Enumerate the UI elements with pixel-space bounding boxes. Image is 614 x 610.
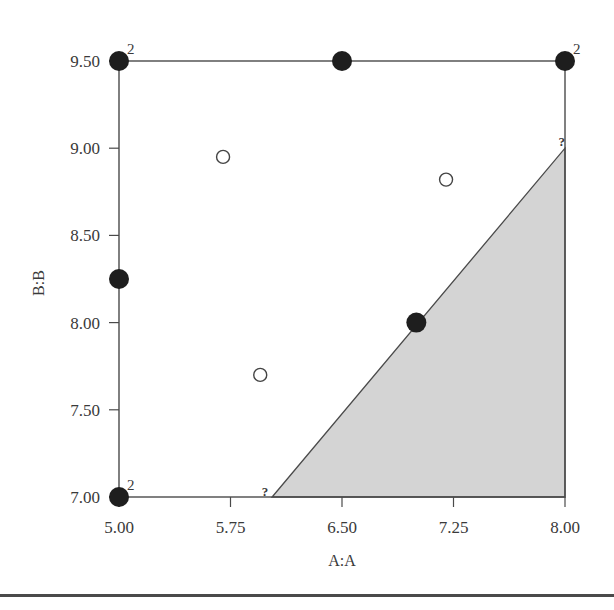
- filled-design-point: [109, 51, 129, 71]
- x-tick-label: 8.00: [550, 518, 580, 537]
- x-tick-label: 6.50: [327, 518, 357, 537]
- open-design-point: [217, 150, 230, 163]
- constraint-vertex-label: ?: [262, 484, 269, 499]
- y-tick-label: 8.00: [70, 314, 100, 333]
- constraint-vertex-label: ?: [559, 134, 566, 149]
- y-axis-title: B:B: [30, 270, 47, 296]
- filled-design-point: [109, 487, 129, 507]
- x-tick-label: 7.25: [439, 518, 469, 537]
- y-tick-label: 9.50: [70, 52, 100, 71]
- y-tick-label: 7.50: [70, 401, 100, 420]
- x-axis-ticks: 5.005.756.507.258.00: [104, 497, 580, 537]
- y-tick-label: 7.00: [70, 488, 100, 507]
- filled-design-point: [332, 51, 352, 71]
- open-design-point: [254, 368, 267, 381]
- open-design-point: [440, 173, 453, 186]
- scatter-chart: 5.005.756.507.258.00 7.007.508.008.509.0…: [0, 0, 614, 610]
- bottom-divider-rule: [0, 594, 614, 597]
- y-tick-label: 8.50: [70, 226, 100, 245]
- y-tick-label: 9.00: [70, 139, 100, 158]
- replicate-count-label: 2: [127, 41, 135, 57]
- filled-design-point: [109, 269, 129, 289]
- replicate-count-label: 2: [573, 41, 581, 57]
- x-axis-title: A:A: [328, 552, 356, 569]
- filled-design-point: [406, 313, 426, 333]
- x-tick-label: 5.75: [216, 518, 246, 537]
- replicate-count-label: 2: [127, 477, 135, 493]
- filled-design-point: [555, 51, 575, 71]
- chart-canvas: 5.005.756.507.258.00 7.007.508.008.509.0…: [0, 0, 614, 610]
- x-tick-label: 5.00: [104, 518, 134, 537]
